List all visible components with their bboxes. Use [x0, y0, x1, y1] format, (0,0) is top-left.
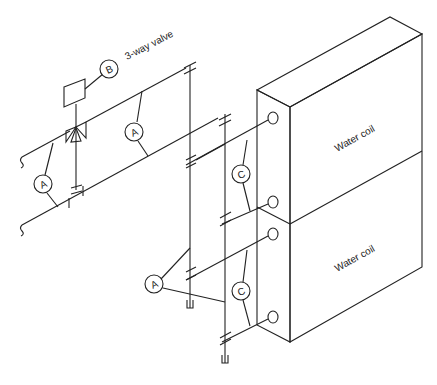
- risers: [184, 62, 268, 363]
- callout-leader: [161, 248, 190, 279]
- coil-upper-outlet-port: [268, 196, 278, 208]
- callout-leader: [47, 193, 58, 207]
- callout-leader: [137, 91, 142, 122]
- callout-leader: [243, 183, 250, 211]
- valve-actuator-icon: [64, 79, 85, 107]
- callout-leader: [85, 74, 103, 89]
- coil-upper-return-branch: [222, 204, 268, 224]
- pipe-break-icon: [21, 225, 24, 236]
- coil-lower-supply-branch: [186, 236, 268, 280]
- coil-lower-return-branch: [222, 319, 268, 342]
- coil-divider-front: [290, 151, 422, 224]
- callout-leader: [138, 141, 148, 156]
- callout-leader: [163, 288, 225, 302]
- coil-lower-outlet-port: [268, 311, 278, 323]
- riser-end-cap-icon: [222, 355, 228, 363]
- pipe-break-icon: [21, 157, 24, 168]
- coil-lower-inlet-port: [268, 228, 278, 240]
- coil-lower-label: Water coil: [333, 243, 377, 274]
- diagram-canvas: Water coil Water coil B 3-way valve A: [0, 0, 437, 385]
- return-pipe: [22, 118, 218, 225]
- callout-leader: [243, 140, 247, 165]
- coil-callouts: C C: [232, 140, 250, 326]
- flange-icon: [186, 267, 196, 272]
- flange-icon: [186, 155, 196, 160]
- callout-leader: [243, 250, 247, 282]
- callout-leader: [243, 300, 250, 326]
- riser-callout: A: [145, 248, 225, 302]
- valve-body-icon: [66, 127, 76, 142]
- coil-top-face: [257, 17, 422, 107]
- callout-leader: [45, 143, 53, 175]
- main-piping: B 3-way valve A A: [21, 28, 219, 236]
- riser-end-cap-icon: [187, 300, 193, 308]
- supply-pipe-in: [22, 131, 70, 157]
- riser-crossover: [196, 144, 225, 160]
- valve-body-icon: [76, 122, 86, 138]
- coil-divider-side: [257, 207, 290, 224]
- valve-label: 3-way valve: [123, 28, 175, 62]
- coil-upper-label: Water coil: [333, 123, 377, 154]
- coil-upper-inlet-port: [268, 112, 278, 124]
- water-coil-assembly: Water coil Water coil: [257, 17, 422, 342]
